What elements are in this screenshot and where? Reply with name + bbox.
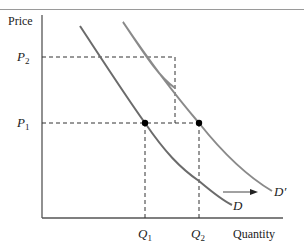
q1-label: Q1 (138, 226, 152, 243)
curve-d-prime-label: D′ (273, 184, 286, 199)
curve-d-label: D (232, 198, 243, 213)
shift-arrow-icon (250, 189, 258, 195)
equilibrium-point-2 (196, 120, 202, 126)
y-axis-label: Price (8, 14, 33, 28)
demand-curve-d (80, 26, 232, 205)
p1-label: P1 (16, 115, 29, 132)
p2-label: P2 (16, 49, 29, 66)
q2-label: Q2 (191, 226, 205, 243)
equilibrium-point-1 (142, 120, 148, 126)
dashed-guides (42, 57, 199, 218)
demand-shift-diagram: Price Quantity P2 P1 Q1 Q2 D D′ (0, 0, 304, 249)
x-axis-label: Quantity (233, 227, 275, 241)
